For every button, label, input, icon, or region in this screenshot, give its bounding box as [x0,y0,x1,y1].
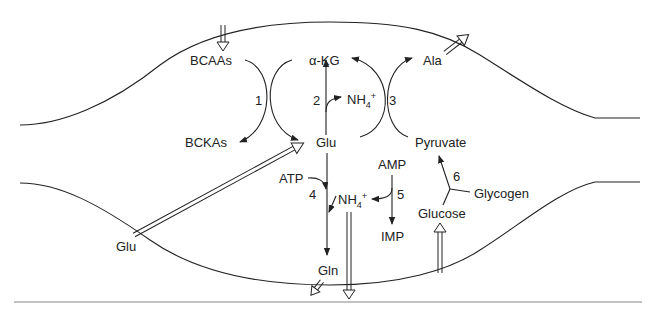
reaction-number-5: 5 [397,187,404,202]
reaction-number-6: 6 [453,169,460,184]
reaction-number-2: 2 [313,93,320,108]
label-glucose: Glucose [418,206,466,221]
label-ala: Ala [423,53,443,68]
membrane-top [20,22,640,125]
reaction-2-nh4-branch [326,97,341,112]
reaction-number-3: 3 [389,93,396,108]
label-glu-extracellular: Glu [116,239,136,254]
gln-release-arrow [307,278,326,298]
label-amp: AMP [378,157,406,172]
reaction-6-glycogen-leg [450,189,470,192]
label-glycogen: Glycogen [474,186,529,201]
label-gln: Gln [318,263,338,278]
bcaa-uptake-arrow [217,25,229,51]
label-nh4-top: NH4+ [347,91,376,110]
label-glu-intracellular: Glu [316,135,336,150]
label-nh4-mid: NH4+ [338,191,367,210]
nh4-release-arrow [343,212,355,299]
reaction-number-1: 1 [255,93,262,108]
glu-uptake-arrow [131,138,306,241]
label-imp: IMP [381,229,404,244]
reaction-5-nh4-branch [372,188,392,199]
reaction-1-left-arc [240,60,267,142]
metabolic-diagram: BCAAs BCKAs α-KG Glu Ala Pyruvate NH4+ N… [0,0,656,320]
glucose-uptake-arrow [434,223,446,273]
label-bcaas: BCAAs [190,53,232,68]
reaction-6-glucose-leg [443,189,450,205]
label-bckas: BCKAs [185,135,227,150]
reaction-4-nh4-input [329,196,336,212]
ala-release-arrow [441,30,472,58]
label-atp: ATP [279,171,303,186]
reaction-6-arrow [439,156,450,189]
reaction-number-4: 4 [309,187,316,202]
label-pyruvate: Pyruvate [415,135,466,150]
reaction-1-right-arc [270,60,298,140]
label-akg: α-KG [309,53,340,68]
